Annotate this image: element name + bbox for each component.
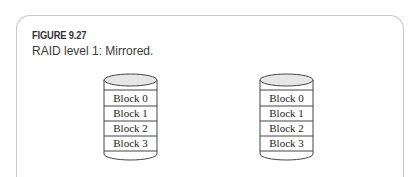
block-label: Block 0 xyxy=(113,92,148,104)
disk-1: Block 0 Block 1 Block 2 Block 3 xyxy=(103,72,159,167)
disk-2: Block 0 Block 1 Block 2 Block 3 xyxy=(259,72,315,167)
block-label: Block 3 xyxy=(113,137,148,149)
block-label: Block 1 xyxy=(269,107,304,119)
block-label: Block 2 xyxy=(269,122,304,134)
block-label: Block 2 xyxy=(113,122,148,134)
figure-label: FIGURE 9.27 xyxy=(32,29,86,41)
figure-caption: RAID level 1: Mirrored. xyxy=(32,44,153,58)
block-label: Block 0 xyxy=(269,92,304,104)
block-label: Block 3 xyxy=(269,137,304,149)
block-label: Block 1 xyxy=(113,107,148,119)
